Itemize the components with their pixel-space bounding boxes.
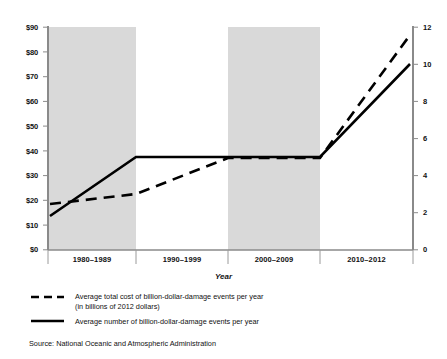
right-axis-tick-label: 2 [423,208,427,217]
left-axis-tick-label: $80 [2,48,38,57]
chart-figure: $90 $80 $70 $60 $50 $40 $30 $20 $10 $0 1… [0,0,447,359]
x-axis-category-label-2: 1990–1999 [136,255,228,264]
right-axis-tick-label: 4 [423,171,427,180]
left-axis-tick-label: $10 [2,221,38,230]
source-note: Source: National Oceanic and Atmospheric… [29,339,216,348]
left-axis-tick-label: $50 [2,122,38,131]
legend-item-average-cost: Average total cost of billion-dollar-dam… [75,292,365,311]
left-axis-tick-label: $0 [2,245,38,254]
left-axis-tick-label: $30 [2,171,38,180]
right-axis-tick-label: 0 [423,245,427,254]
right-axis-tick-label: 10 [423,60,431,69]
legend-label-average-events-line1: Average number of billion-dollar-damage … [75,317,259,326]
left-axis-tick-label: $40 [2,147,38,156]
legend-label-average-cost-line1: Average total cost of billion-dollar-dam… [75,292,263,301]
right-axis-tick-label: 12 [423,23,431,32]
shaded-band-2000-2009 [228,27,320,250]
legend-item-average-events: Average number of billion-dollar-damage … [75,317,365,327]
right-axis-tick-label: 8 [423,97,427,106]
left-axis-tick-label: $70 [2,72,38,81]
left-axis-tick-label: $90 [2,23,38,32]
x-axis-category-label-1: 1980–1989 [48,255,136,264]
x-axis-category-label-4: 2010–2012 [320,255,413,264]
x-axis-title: Year [0,272,447,281]
legend-label-average-cost-line2: (in billions of 2012 dollars) [75,302,160,311]
x-axis-category-label-3: 2000–2009 [228,255,320,264]
shaded-band-1980-1989 [48,27,136,250]
left-axis-tick-label: $20 [2,196,38,205]
right-axis-tick-label: 6 [423,134,427,143]
left-axis-tick-label: $60 [2,97,38,106]
